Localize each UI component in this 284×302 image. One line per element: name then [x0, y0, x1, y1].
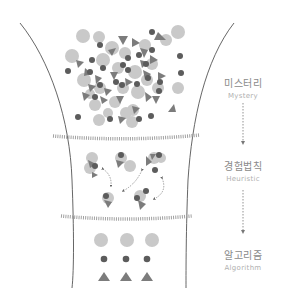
- label-en: Mystery: [213, 92, 273, 100]
- heuristic-cluster: [84, 152, 166, 210]
- heuristic-arrow-1: [103, 169, 111, 186]
- divider-heuristic-algorithm: [61, 216, 192, 219]
- label-ko: 알고리즘: [213, 247, 273, 262]
- heuristic-arrow-2: [123, 170, 142, 191]
- algorithm-grid: [94, 233, 159, 281]
- mystery-cluster: [65, 25, 185, 128]
- stage-label-mystery: 미스터리 Mystery: [213, 75, 273, 100]
- heuristic-arrow-3: [154, 178, 164, 199]
- divider-mystery-heuristic: [53, 135, 200, 139]
- stage-label-heuristic: 경험법칙 Heuristic: [213, 158, 273, 183]
- label-en: Heuristic: [213, 175, 273, 183]
- label-en: Algorithm: [213, 264, 273, 272]
- label-ko: 미스터리: [213, 75, 273, 90]
- label-ko: 경험법칙: [213, 158, 273, 173]
- funnel-left-edge: [20, 23, 74, 288]
- stage-label-algorithm: 알고리즘 Algorithm: [213, 247, 273, 272]
